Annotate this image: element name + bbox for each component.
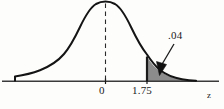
shaded-tail-area: [147, 57, 196, 82]
annotation-leader-line: [161, 44, 174, 66]
x-tick-label-cutoff: 1.75: [132, 84, 152, 96]
normal-curve-plot: [0, 0, 224, 109]
x-axis-variable-label: z: [207, 90, 211, 100]
tail-area-annotation-label: .04: [168, 29, 182, 41]
normal-distribution-figure: 0 1.75 z .04: [0, 0, 224, 109]
x-tick-label-zero: 0: [99, 84, 105, 96]
